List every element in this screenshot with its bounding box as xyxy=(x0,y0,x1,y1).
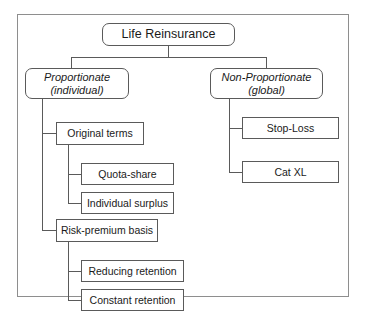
connector-root-bus xyxy=(71,57,266,58)
connector-to-quota-share xyxy=(68,174,81,175)
node-cat-xl[interactable]: Cat XL xyxy=(242,161,339,183)
node-life-reinsurance[interactable]: Life Reinsurance xyxy=(102,23,235,46)
node-non-proportionate[interactable]: Non-Proportionate (global) xyxy=(210,68,323,99)
node-original-terms[interactable]: Original terms xyxy=(56,122,144,145)
connector-to-proportionate xyxy=(71,57,72,68)
diagram-canvas: Life Reinsurance Proportionate (individu… xyxy=(0,0,366,317)
connector-left-spine xyxy=(42,99,43,230)
node-label-original-terms: Original terms xyxy=(67,127,132,139)
node-stop-loss[interactable]: Stop-Loss xyxy=(242,117,339,139)
node-label-non-proportionate: Non-Proportionate (global) xyxy=(222,71,312,97)
connector-to-constant-retention xyxy=(68,300,81,301)
connector-to-reducing-retention xyxy=(68,271,81,272)
node-risk-premium-basis[interactable]: Risk-premium basis xyxy=(56,219,158,242)
node-reducing-retention[interactable]: Reducing retention xyxy=(81,260,184,282)
node-constant-retention[interactable]: Constant retention xyxy=(81,289,184,311)
node-label-reducing-retention: Reducing retention xyxy=(88,265,176,277)
diagram-frame-border: Life Reinsurance Proportionate (individu… xyxy=(17,14,349,297)
node-label-stop-loss: Stop-Loss xyxy=(267,122,314,134)
connector-to-individual-surplus xyxy=(68,203,81,204)
connector-to-non-proportionate xyxy=(266,57,267,68)
node-label-life-reinsurance: Life Reinsurance xyxy=(122,27,216,42)
connector-root-stem xyxy=(168,46,169,57)
node-label-proportionate: Proportionate (individual) xyxy=(44,71,110,97)
connector-right-spine xyxy=(229,99,230,172)
connector-to-cat-xl xyxy=(229,172,242,173)
connector-left-spine-to-original-terms xyxy=(42,133,56,134)
node-quota-share[interactable]: Quota-share xyxy=(81,163,174,185)
node-label-cat-xl: Cat XL xyxy=(274,166,306,178)
node-label-constant-retention: Constant retention xyxy=(90,294,176,306)
node-label-individual-surplus: Individual surplus xyxy=(87,197,168,209)
node-proportionate[interactable]: Proportionate (individual) xyxy=(25,68,129,99)
node-individual-surplus[interactable]: Individual surplus xyxy=(81,192,174,214)
connector-left-spine-to-risk-premium xyxy=(42,230,56,231)
connector-to-stop-loss xyxy=(229,128,242,129)
node-label-quota-share: Quota-share xyxy=(98,168,156,180)
node-label-risk-premium-basis: Risk-premium basis xyxy=(61,224,153,236)
